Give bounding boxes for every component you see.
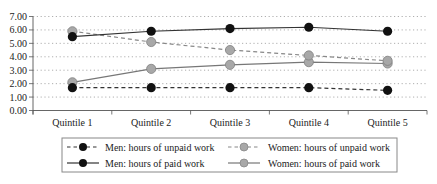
line-chart: 0.001.002.003.004.005.006.007.00 Quintil… <box>0 0 437 184</box>
legend-marker-icon <box>240 159 248 167</box>
data-point-marker <box>383 56 392 65</box>
y-tick-label: 3.00 <box>10 65 28 76</box>
data-point-marker <box>147 27 156 36</box>
data-point-marker <box>225 60 234 69</box>
y-tick-label: 7.00 <box>10 11 28 22</box>
data-point-marker <box>225 24 234 33</box>
data-point-marker <box>383 27 392 36</box>
data-point-marker <box>147 83 156 92</box>
x-tick-label: Quintile 4 <box>289 117 329 128</box>
y-tick-label: 6.00 <box>10 24 28 35</box>
y-tick-label: 2.00 <box>10 78 28 89</box>
data-series <box>68 23 392 95</box>
legend-marker-icon <box>79 159 87 167</box>
data-point-marker <box>304 83 313 92</box>
legend-label: Women: hours of unpaid work <box>268 142 390 153</box>
x-tick-label: Quintile 3 <box>210 117 250 128</box>
data-point-marker <box>68 83 77 92</box>
legend-marker-icon <box>79 143 87 151</box>
x-tick-label: Quintile 2 <box>131 117 171 128</box>
legend-label: Women: hours of paid work <box>268 158 380 169</box>
data-point-marker <box>304 23 313 32</box>
data-point-marker <box>383 86 392 95</box>
legend: Men: hours of unpaid work Women: hours o… <box>62 138 397 172</box>
x-axis: Quintile 1Quintile 2Quintile 3Quintile 4… <box>33 111 427 129</box>
y-tick-label: 4.00 <box>10 51 28 62</box>
y-tick-label: 0.00 <box>10 105 28 116</box>
y-axis: 0.001.002.003.004.005.006.007.00 <box>10 11 34 116</box>
legend-label: Men: hours of paid work <box>105 158 204 169</box>
x-tick-label: Quintile 1 <box>52 117 92 128</box>
y-tick-label: 1.00 <box>10 92 28 103</box>
data-point-marker <box>304 51 313 60</box>
legend-marker-icon <box>240 143 248 151</box>
data-point-marker <box>147 37 156 46</box>
data-point-marker <box>147 64 156 73</box>
legend-label: Men: hours of unpaid work <box>105 142 214 153</box>
data-point-marker <box>225 45 234 54</box>
y-tick-label: 5.00 <box>10 38 28 49</box>
x-tick-label: Quintile 5 <box>367 117 407 128</box>
data-point-marker <box>68 32 77 41</box>
data-point-marker <box>225 83 234 92</box>
